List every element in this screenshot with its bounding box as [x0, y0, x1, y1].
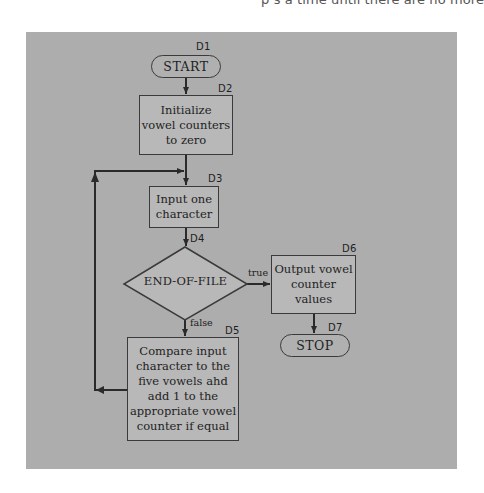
input-character-box: Input one character [149, 186, 219, 228]
line: five vowels ahd [130, 374, 236, 389]
node-id-d6: D6 [342, 243, 357, 254]
node-id-d4: D4 [190, 233, 205, 244]
line: counter if equal [130, 419, 236, 434]
line: appropriate vowel [130, 404, 236, 419]
end-of-file-decision-text: END-OF-FILE [124, 274, 247, 288]
stop-terminal: STOP [280, 334, 350, 357]
flowchart-connectors [0, 0, 484, 493]
node-id-d7: D7 [328, 322, 343, 333]
line: values [274, 292, 352, 307]
node-id-d1: D1 [196, 41, 211, 52]
line: Initialize [142, 103, 230, 118]
output-counters-box: Output vowel counter values [271, 255, 356, 314]
line: Input one [156, 192, 212, 207]
line: to zero [142, 133, 230, 148]
line: counter [274, 277, 352, 292]
node-id-d3: D3 [208, 173, 223, 184]
node-id-d5: D5 [225, 325, 240, 336]
line: Compare input [130, 344, 236, 359]
initialize-counters-box: Initialize vowel counters to zero [139, 95, 233, 155]
edge-label-false: false [190, 317, 213, 328]
line: add 1 to the [130, 389, 236, 404]
node-id-d2: D2 [218, 83, 233, 94]
edge-label-true: true [248, 267, 268, 278]
start-terminal: START [151, 55, 221, 78]
line: character to the [130, 359, 236, 374]
line: character [156, 207, 212, 222]
line: Output vowel [274, 262, 352, 277]
line: vowel counters [142, 118, 230, 133]
compare-vowels-box: Compare input character to the five vowe… [127, 337, 239, 441]
